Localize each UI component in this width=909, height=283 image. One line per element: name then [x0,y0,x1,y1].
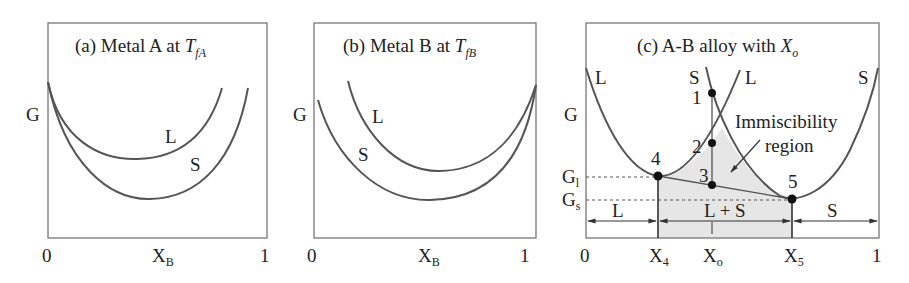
solid-label-mid: S [689,67,700,88]
panel-c-title: (c) A-B alloy with Xo [637,35,798,60]
panel-b: (b) Metal B at TfB L S G 0 1 XB [293,23,536,269]
panel-c: (c) A-B alloy with Xo L L + S S 1 2 3 4 … [562,23,882,269]
x-tick-xo: Xo [703,245,723,269]
x-axis-label: XB [418,245,440,269]
x-tick-1: 1 [520,245,530,266]
liquid-label-left: L [595,67,607,88]
point-2 [708,139,716,147]
x-tick-x5: X5 [784,245,804,269]
panel-a: (a) Metal A at TfA L S G 0 1 XB [26,23,270,269]
point-5-label: 5 [788,171,798,192]
solid-label: S [190,154,201,175]
point-1 [708,89,716,97]
x-tick-0: 0 [307,245,317,266]
solid-label-right: S [858,67,869,88]
point-2-label: 2 [692,136,702,157]
panel-a-title: (a) Metal A at TfA [75,35,207,60]
region-label-l: L [612,200,624,221]
solid-label: S [358,144,369,165]
region-label-s: S [827,200,838,221]
liquid-label: L [165,126,177,147]
point-4-label: 4 [651,148,661,169]
point-1-label: 1 [692,87,702,108]
solid-curve [318,85,536,200]
liquid-label-mid: L [745,67,757,88]
y-axis-label: G [564,104,578,125]
region-label-l-plus-s: L + S [704,200,746,221]
point-3 [708,181,716,189]
x-tick-x4: X4 [649,245,669,269]
x-tick-0: 0 [42,245,52,266]
point-4 [654,172,663,181]
liquid-label: L [372,106,384,127]
gs-label: Gs [562,189,581,213]
gl-label: Gl [562,166,580,190]
y-axis-label: G [26,104,40,125]
x-tick-1: 1 [260,245,270,266]
x-tick-1: 1 [872,245,882,266]
x-axis-label: XB [152,245,174,269]
y-axis-label: G [293,104,307,125]
point-5 [788,195,797,204]
x-tick-0: 0 [580,245,590,266]
immiscibility-label: Immiscibility [735,111,838,132]
panel-b-title: (b) Metal B at TfB [343,35,477,60]
region-label: region [765,135,814,156]
figure-canvas: (a) Metal A at TfA L S G 0 1 XB (b) Meta… [0,0,909,283]
liquid-curve [48,82,222,159]
point-3-label: 3 [699,165,709,186]
